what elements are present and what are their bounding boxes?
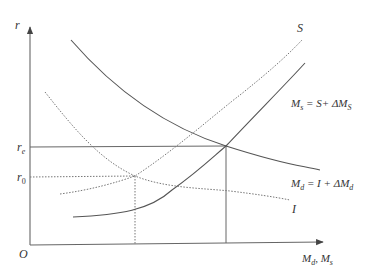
loanable-funds-diagram: r O re r0 Md, Ms S I Ms = S+ ΔMS Md = I … [0,0,365,278]
r0-label: r0 [17,170,26,186]
curves [45,40,320,217]
i-curve-label: I [291,202,297,216]
origin-label: O [19,247,28,261]
y-axis-label: r [15,18,20,32]
re-label: re [17,140,26,156]
x-axis-label: Md, Ms [301,252,333,267]
axes [30,27,323,245]
s-curve [60,40,302,194]
re-horizontal-line [30,146,226,147]
s-curve-label: S [297,21,303,35]
x-axis [30,242,323,245]
ms-equation-label: Ms = S+ ΔMS [290,97,352,112]
md-equation-label: Md = I + ΔMd [290,177,354,192]
labels: r O re r0 Md, Ms S I Ms = S+ ΔMS Md = I … [15,18,354,267]
ms-curve [73,63,305,217]
guide-lines [30,146,226,244]
r0-horizontal-dotted-line [30,176,135,177]
